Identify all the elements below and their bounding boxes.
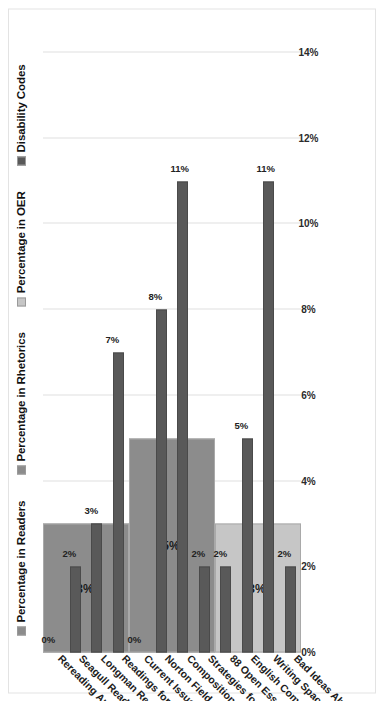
category-label-3: Readings for Writers <box>120 652 128 660</box>
legend-swatch-icon <box>17 626 26 635</box>
legend-item-3[interactable]: Disability Codes <box>15 64 27 165</box>
category-label-6: Composition of Everyday Life <box>185 652 193 660</box>
category-label-8: 88 Open Essays <box>228 652 236 660</box>
category-label-5: Norton Field Guide to Writing with Readi… <box>163 652 171 660</box>
legend-swatch-icon <box>17 297 26 306</box>
legend-swatch-icon <box>17 156 26 165</box>
bar-disability-codes-9 <box>242 438 253 652</box>
x-tick-0%: 0% <box>298 647 320 658</box>
x-axis-tick-labels: 0%2%4%6%8%10%12%14% <box>301 52 327 652</box>
rotated-chart-container: Percentage in ReadersPercentage in Rheto… <box>0 0 384 701</box>
category-label-0: Rereading America <box>56 652 64 660</box>
chart-frame: Percentage in ReadersPercentage in Rheto… <box>8 8 376 693</box>
bar-disability-codes-1 <box>70 566 81 652</box>
bar-value-label-7: 2% <box>192 548 214 559</box>
x-tick-2%: 2% <box>298 561 320 572</box>
bar-disability-codes-3 <box>113 352 124 652</box>
legend-item-label: Disability Codes <box>15 64 27 152</box>
gridline-12% <box>43 137 301 138</box>
bar-disability-codes-2 <box>91 523 102 652</box>
bar-value-label-4: 0% <box>127 634 149 645</box>
bar-disability-codes-10 <box>263 181 274 652</box>
plot-inner: 3%5%3%0%2%3%7%0%8%11%2%2%5%11%2% <box>43 52 301 652</box>
gridline-14% <box>43 51 301 52</box>
category-label-7: Strategies for Successful Writing <box>206 652 214 660</box>
chart-legend: Percentage in ReadersPercentage in Rheto… <box>15 7 27 692</box>
x-tick-8%: 8% <box>298 304 320 315</box>
bar-value-label-0: 0% <box>41 634 63 645</box>
legend-item-2[interactable]: Percentage in OER <box>15 191 27 306</box>
x-tick-4%: 4% <box>298 475 320 486</box>
bar-value-label-5: 8% <box>149 291 171 302</box>
category-label-2: Longman Reader <box>99 652 107 660</box>
bar-value-label-6: 11% <box>170 162 192 173</box>
category-label-1: Seagull Reader: Essays <box>77 652 85 660</box>
x-tick-14%: 14% <box>298 47 320 58</box>
legend-item-label: Percentage in Readers <box>15 500 27 622</box>
category-label-4: Current Issues and Enduring Questions <box>142 652 150 660</box>
bar-value-label-9: 5% <box>235 419 257 430</box>
legend-swatch-icon <box>17 465 26 474</box>
bar-value-label-8: 2% <box>213 548 235 559</box>
legend-item-1[interactable]: Percentage in Rhetorics <box>15 332 27 474</box>
plot-area: 3%5%3%0%2%3%7%0%8%11%2%2%5%11%2% <box>43 52 301 652</box>
bar-disability-codes-11 <box>285 566 296 652</box>
bar-disability-codes-6 <box>177 181 188 652</box>
legend-item-0[interactable]: Percentage in Readers <box>15 500 27 635</box>
x-tick-6%: 6% <box>298 389 320 400</box>
bar-value-label-1: 2% <box>63 548 85 559</box>
legend-item-label: Percentage in OER <box>15 191 27 293</box>
category-label-9: English Composition 1: Rhetorical Method… <box>249 652 257 660</box>
bar-value-label-11: 2% <box>278 548 300 559</box>
x-tick-12%: 12% <box>298 132 320 143</box>
bar-value-label-3: 7% <box>106 334 128 345</box>
category-label-10: Writing Spaces <box>271 652 279 660</box>
bar-value-label-2: 3% <box>84 505 106 516</box>
x-tick-10%: 10% <box>298 218 320 229</box>
bar-disability-codes-7 <box>199 566 210 652</box>
chart-page: Percentage in ReadersPercentage in Rheto… <box>0 0 384 701</box>
bar-disability-codes-5 <box>156 309 167 652</box>
bar-disability-codes-8 <box>220 566 231 652</box>
bar-value-label-10: 11% <box>256 162 278 173</box>
legend-item-label: Percentage in Rhetorics <box>15 332 27 461</box>
